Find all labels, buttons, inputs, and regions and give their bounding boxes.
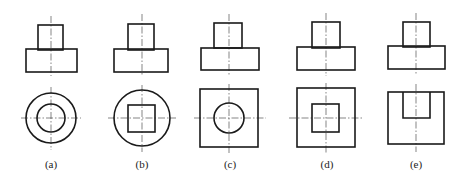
- front-view-base: [388, 46, 445, 69]
- front-view-upper-block: [38, 25, 63, 50]
- panel-b: [108, 14, 176, 152]
- panel-e: [388, 13, 445, 152]
- top-view-inner-square: [128, 105, 155, 132]
- front-view-base: [26, 49, 77, 72]
- front-view-upper-block: [403, 22, 430, 47]
- panel-d: [289, 13, 362, 153]
- top-view-u-notch: [403, 92, 430, 118]
- panel-label-b: (b): [136, 158, 149, 170]
- panel-label-e: (e): [410, 158, 422, 170]
- front-view-base: [201, 48, 259, 70]
- panel-label-d: (d): [321, 158, 334, 170]
- panel-a: [21, 16, 81, 150]
- panel-label-c: (c): [224, 158, 236, 170]
- front-view-upper-block: [214, 23, 242, 48]
- panel-c: [194, 14, 266, 153]
- front-view-upper-block: [128, 24, 154, 50]
- front-view-base: [114, 49, 168, 72]
- panel-label-a: (a): [45, 158, 57, 170]
